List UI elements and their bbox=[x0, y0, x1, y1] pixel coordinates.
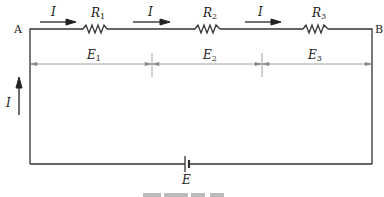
voltage-label-e3: E3 bbox=[307, 48, 322, 63]
voltage-label-e1: E1 bbox=[86, 48, 101, 63]
resistor-label-r2: R2 bbox=[202, 6, 217, 21]
clipped-caption bbox=[143, 193, 224, 197]
current-label-left: I bbox=[5, 96, 11, 110]
current-label-1: I bbox=[50, 5, 56, 19]
circuit-diagram: A B I I I I R1 R2 R3 E1 E2 E3 E bbox=[0, 0, 384, 197]
battery-symbol bbox=[185, 156, 189, 172]
node-label-b: B bbox=[375, 23, 383, 36]
resistor-r2 bbox=[195, 25, 220, 33]
resistor-r1 bbox=[83, 25, 107, 33]
resistor-label-r3: R3 bbox=[311, 6, 326, 21]
current-label-3: I bbox=[257, 5, 263, 19]
node-label-a: A bbox=[13, 23, 23, 36]
resistor-label-r1: R1 bbox=[90, 6, 105, 21]
current-arrows bbox=[16, 19, 281, 115]
source-label-e: E bbox=[181, 173, 191, 187]
resistor-r3 bbox=[303, 25, 328, 33]
current-label-2: I bbox=[147, 5, 153, 19]
voltage-label-e2: E2 bbox=[202, 48, 217, 63]
top-wire bbox=[30, 25, 372, 164]
